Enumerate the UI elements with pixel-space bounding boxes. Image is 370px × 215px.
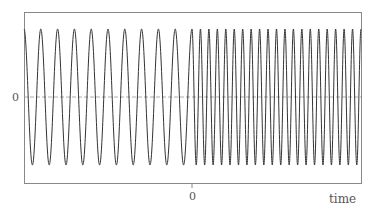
x-zero-label: 0	[189, 190, 196, 203]
x-axis-label: time	[329, 192, 356, 206]
chart: 0 0 time	[0, 0, 370, 215]
y-zero-label: 0	[12, 91, 19, 104]
